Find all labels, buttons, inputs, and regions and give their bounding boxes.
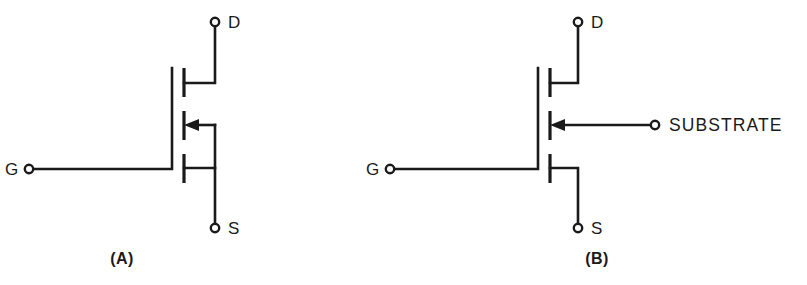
panel-caption-b: (B) — [585, 250, 608, 267]
source-label-b: S — [591, 219, 603, 238]
drain-terminal-dot-b[interactable] — [574, 18, 582, 26]
gate-wire-b — [394, 68, 538, 169]
drain-label-a: D — [228, 13, 241, 32]
figure-root: D S G (A) D — [0, 0, 807, 285]
drain-label-b: D — [591, 13, 604, 32]
source-terminal-dot-a[interactable] — [211, 224, 219, 232]
gate-terminal-dot-b[interactable] — [386, 165, 394, 173]
mosfet-schematic-canvas: D S G (A) D — [0, 0, 807, 285]
source-terminal-dot-b[interactable] — [574, 224, 582, 232]
substrate-label-b: SUBSTRATE — [669, 115, 783, 135]
substrate-terminal-dot-b[interactable] — [651, 121, 659, 129]
panel-a-symbol: D S G (A) — [5, 13, 241, 267]
panel-b-symbol: D S G SUBSTRATE (B) — [366, 13, 783, 267]
source-wire-a — [184, 168, 215, 227]
source-label-a: S — [228, 219, 240, 238]
gate-label-b: G — [366, 160, 380, 179]
substrate-arrow-head-a — [184, 119, 199, 131]
source-wire-b — [550, 168, 578, 227]
drain-terminal-dot-a[interactable] — [211, 18, 219, 26]
drain-wire-b — [550, 23, 578, 83]
gate-label-a: G — [5, 160, 19, 179]
gate-terminal-dot-a[interactable] — [25, 165, 33, 173]
panel-caption-a: (A) — [110, 250, 133, 267]
substrate-arrow-head-b — [550, 119, 565, 131]
drain-wire-a — [184, 23, 215, 83]
gate-wire-a — [33, 68, 172, 169]
